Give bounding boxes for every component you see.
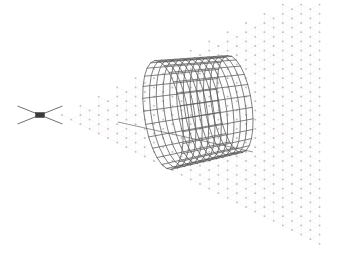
cylinder-axis-line <box>118 122 253 152</box>
source-hub <box>36 113 45 118</box>
technical-illustration <box>0 0 337 257</box>
dot-points <box>61 4 320 245</box>
conical-dot-field <box>61 4 320 245</box>
x-shaped-source-marker <box>18 106 62 124</box>
figure-canvas <box>0 0 337 257</box>
axis-segment <box>118 122 253 152</box>
